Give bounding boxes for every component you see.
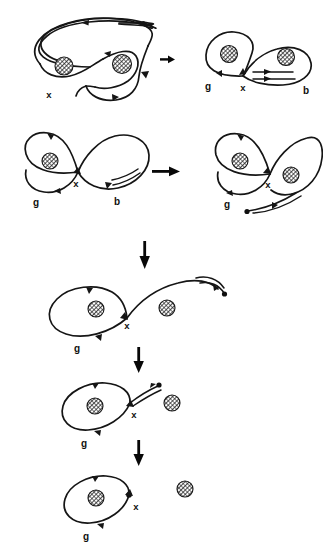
puncture-hole — [278, 49, 295, 66]
label-g: g — [74, 343, 80, 354]
puncture-hole — [164, 395, 180, 411]
puncture-hole — [88, 301, 104, 317]
puncture-hole — [159, 300, 175, 316]
puncture-hole — [113, 55, 132, 74]
strand-endpoint-dot — [222, 291, 227, 296]
figure-canvas: x — [0, 0, 323, 556]
label-x: x — [73, 178, 79, 189]
label-x: x — [133, 501, 139, 512]
puncture-hole — [88, 490, 104, 506]
label-b: b — [303, 85, 309, 96]
label-g: g — [33, 197, 39, 208]
label-g: g — [224, 199, 230, 210]
label-g: g — [81, 438, 87, 449]
puncture-hole — [232, 153, 248, 169]
label-g: g — [205, 81, 211, 92]
label-b: b — [114, 196, 120, 207]
label-x: x — [265, 179, 271, 190]
background — [0, 0, 323, 556]
label-x: x — [124, 320, 130, 331]
label-x: x — [131, 409, 137, 420]
strand-endpoint-dot — [156, 382, 161, 387]
label-g: g — [83, 531, 89, 542]
strand-endpoint-dot — [244, 209, 249, 214]
label-x: x — [46, 89, 52, 100]
label-x: x — [240, 82, 246, 93]
puncture-hole — [221, 46, 238, 63]
puncture-hole — [87, 398, 103, 414]
puncture-hole — [283, 167, 299, 183]
puncture-hole — [177, 481, 193, 497]
puncture-hole — [42, 153, 58, 169]
diagram-svg: x — [0, 0, 323, 556]
puncture-hole — [55, 57, 73, 75]
